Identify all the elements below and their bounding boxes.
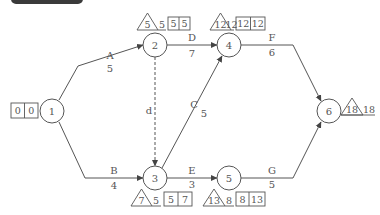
node-2-label: 2 [152, 40, 158, 51]
edge-E-duration: 3 [189, 179, 195, 190]
edge-C-name: C [190, 99, 198, 110]
node-5-tri-value: 13 [208, 195, 220, 206]
node-2-tri-after: 5 [159, 19, 165, 30]
node-1-es: 0 [15, 105, 21, 116]
node-3-tri-after: 5 [153, 195, 159, 206]
node-5-tri-after: 8 [226, 195, 232, 206]
node-2-tri-value: 5 [144, 19, 150, 30]
node-1-label: 1 [49, 106, 55, 117]
node-6-tri-after: 18 [363, 104, 375, 115]
edge-G-name: G [268, 165, 276, 176]
node-6-label: 6 [326, 106, 332, 117]
edge-d-name: d [146, 105, 153, 116]
edge-F-name: F [269, 32, 276, 43]
node-3-tri-value: 7 [138, 195, 144, 206]
node-4-tri-after: 12 [225, 19, 237, 30]
edge-F-duration: 6 [269, 47, 275, 58]
edge-E-name: E [188, 165, 195, 176]
edge-D-duration: 7 [189, 48, 195, 59]
node-5-box-left: 8 [239, 194, 245, 205]
node-4-label: 4 [226, 40, 232, 51]
edge-C [162, 56, 222, 168]
header-banner [11, 0, 83, 4]
node-4-box-right: 12 [252, 18, 264, 29]
edge-F [241, 45, 321, 101]
node-3-label: 3 [152, 173, 158, 184]
diagram-canvas: A 5 B 4 C 5 d D 7 E 3 F 6 G 5 1 2 [0, 0, 380, 215]
edge-A-name: A [105, 50, 114, 61]
edge-C-duration: 5 [201, 108, 207, 119]
node-3-box-right: 7 [182, 194, 188, 205]
node-5-label: 5 [226, 173, 232, 184]
node-5-box-right: 13 [251, 194, 263, 205]
edge-A [59, 45, 143, 100]
edge-B-duration: 4 [111, 180, 117, 191]
edge-G-duration: 5 [269, 179, 275, 190]
node-2-box-right: 5 [181, 18, 187, 29]
node-1-lf: 0 [28, 105, 34, 116]
edge-G [241, 122, 321, 178]
node-2-box-left: 5 [170, 18, 176, 29]
edge-B [59, 122, 143, 178]
node-4-box-left: 12 [237, 18, 249, 29]
network-diagram: A 5 B 4 C 5 d D 7 E 3 F 6 G 5 1 2 [0, 0, 380, 215]
edge-A-duration: 5 [107, 63, 113, 74]
edge-B-name: B [110, 165, 117, 176]
node-3-box-left: 5 [168, 194, 174, 205]
edge-D-name: D [188, 32, 196, 43]
node-6-tri-value: 18 [346, 104, 358, 115]
